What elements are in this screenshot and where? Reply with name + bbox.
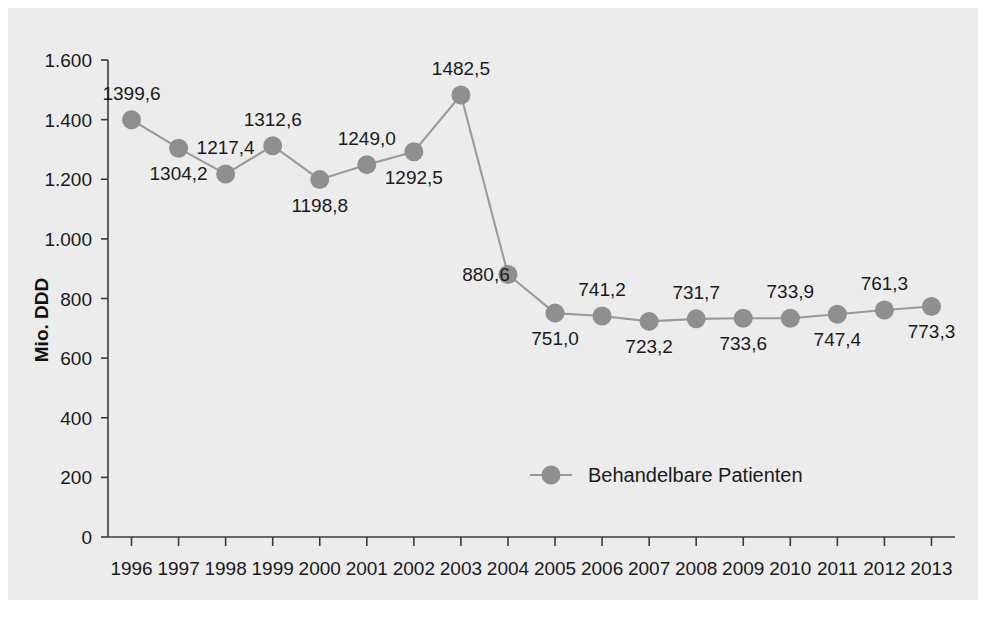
x-tick-label: 1997: [157, 558, 199, 579]
x-tick-label: 2007: [628, 558, 670, 579]
chart-legend: Behandelbare Patienten: [530, 464, 803, 486]
data-point-marker: [404, 142, 423, 161]
x-tick-label: 1998: [204, 558, 246, 579]
legend-label: Behandelbare Patienten: [588, 464, 803, 486]
data-point-marker: [451, 86, 470, 105]
y-tick-label: 1.200: [44, 169, 92, 190]
data-point-marker: [687, 309, 706, 328]
series-data-labels: 1399,61304,21217,41312,61198,81249,01292…: [102, 58, 955, 357]
x-tick-label: 2012: [863, 558, 905, 579]
data-point-marker: [781, 309, 800, 328]
x-tick-label: 2005: [534, 558, 576, 579]
x-axis: 1996199719981999200020012002200320042005…: [108, 537, 955, 579]
legend-marker-icon: [542, 466, 561, 485]
y-tick-label: 1.600: [44, 50, 92, 71]
y-tick-label: 1.000: [44, 229, 92, 250]
y-axis: 02004006008001.0001.2001.4001.600: [44, 50, 108, 548]
data-point-marker: [122, 110, 141, 129]
data-point-marker: [546, 304, 565, 323]
x-tick-label: 2002: [393, 558, 435, 579]
x-axis-ticks: 1996199719981999200020012002200320042005…: [110, 537, 952, 579]
x-tick-label: 2013: [910, 558, 952, 579]
data-point-marker: [310, 170, 329, 189]
data-point-marker: [593, 307, 612, 326]
data-point-label: 1304,2: [150, 163, 208, 184]
x-tick-label: 2004: [487, 558, 530, 579]
x-tick-label: 2011: [817, 558, 858, 579]
y-tick-label: 1.400: [44, 110, 92, 131]
x-tick-label: 1999: [252, 558, 294, 579]
y-axis-ticks: 02004006008001.0001.2001.4001.600: [44, 50, 108, 548]
y-axis-title: Mio. DDD: [31, 278, 52, 362]
data-point-label: 1249,0: [338, 128, 396, 149]
x-tick-label: 2010: [769, 558, 811, 579]
x-tick-label: 2009: [722, 558, 764, 579]
data-point-label: 733,6: [719, 333, 767, 354]
data-point-marker: [875, 301, 894, 320]
data-point-marker: [640, 312, 659, 331]
data-point-label: 1399,6: [102, 83, 160, 104]
data-point-marker: [734, 309, 753, 328]
data-point-label: 733,9: [767, 281, 815, 302]
data-point-label: 880,6: [462, 264, 510, 285]
data-point-label: 1482,5: [432, 58, 490, 79]
data-point-marker: [357, 155, 376, 174]
x-tick-label: 2008: [675, 558, 717, 579]
y-tick-label: 600: [60, 348, 92, 369]
x-tick-label: 2003: [440, 558, 482, 579]
data-point-label: 741,2: [578, 279, 626, 300]
chart-container: Mio. DDD 02004006008001.0001.2001.4001.6…: [0, 0, 986, 617]
data-point-marker: [169, 139, 188, 158]
x-tick-label: 2006: [581, 558, 623, 579]
data-point-label: 1292,5: [385, 167, 443, 188]
data-point-label: 1198,8: [291, 195, 348, 216]
data-point-label: 1217,4: [197, 137, 256, 158]
y-tick-label: 400: [60, 408, 92, 429]
data-point-marker: [216, 165, 235, 184]
data-point-marker: [922, 297, 941, 316]
data-point-label: 731,7: [672, 282, 720, 303]
y-tick-label: 800: [60, 289, 92, 310]
y-tick-label: 0: [81, 527, 92, 548]
x-tick-label: 2001: [346, 558, 388, 579]
x-tick-label: 1996: [110, 558, 152, 579]
data-point-label: 747,4: [814, 329, 862, 350]
data-point-label: 1312,6: [244, 109, 302, 130]
data-point-marker: [263, 136, 282, 155]
y-tick-label: 200: [60, 467, 92, 488]
line-chart: Mio. DDD 02004006008001.0001.2001.4001.6…: [0, 0, 986, 617]
data-point-label: 773,3: [908, 321, 956, 342]
x-tick-label: 2000: [299, 558, 341, 579]
data-point-label: 751,0: [531, 328, 579, 349]
data-point-label: 723,2: [625, 336, 673, 357]
data-point-marker: [828, 305, 847, 324]
data-point-label: 761,3: [861, 273, 909, 294]
